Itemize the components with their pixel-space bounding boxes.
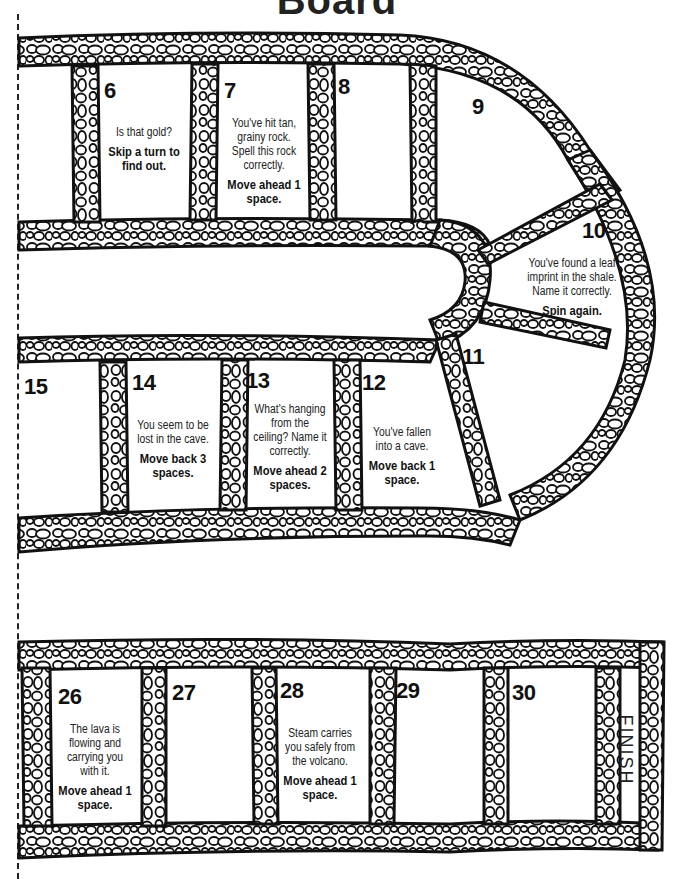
- space-number: 6: [104, 80, 116, 102]
- space-instructions: What's hanging from the ceiling? Name it…: [252, 402, 328, 492]
- space-number: 29: [396, 680, 419, 702]
- space-action: Move back 1 space.: [366, 459, 438, 487]
- space-message: The lava is flowing and carrying you wit…: [56, 722, 133, 778]
- divider-26-left: [22, 668, 52, 826]
- space-number: 28: [280, 680, 303, 702]
- space-instructions: The lava is flowing and carrying you wit…: [56, 722, 133, 812]
- divider-27-28: [252, 668, 278, 824]
- space-number: 30: [512, 682, 535, 704]
- space-number: 11: [462, 346, 484, 368]
- space-instructions: Steam carries you safely from the volcan…: [279, 726, 362, 802]
- space-message: You've found a leaf imprint in the shale…: [520, 256, 623, 298]
- divider-13-14: [220, 360, 248, 510]
- space-instructions: You seem to be lost in the cave. Move ba…: [134, 418, 211, 480]
- space-action: Move ahead 1 space.: [279, 774, 362, 802]
- finish-label: FINISH: [615, 714, 636, 785]
- space-action: Spin again.: [520, 304, 623, 318]
- space-message: You seem to be lost in the cave.: [134, 418, 211, 446]
- space-number: 14: [132, 372, 155, 394]
- space-action: Move ahead 1 space.: [224, 178, 303, 206]
- space-message: What's hanging from the ceiling? Name it…: [252, 402, 328, 458]
- board-space-finish: FINISH: [605, 690, 645, 810]
- divider-8-9: [410, 64, 436, 222]
- space-action: Move ahead 2 spaces.: [252, 464, 328, 492]
- divider-29-30: [484, 668, 508, 824]
- space-number: 7: [224, 80, 236, 102]
- space-message: Is that gold?: [104, 125, 183, 139]
- divider-6-7: [190, 64, 218, 220]
- path-border-middle-top: [19, 335, 440, 362]
- space-instructions: You've found a leaf imprint in the shale…: [520, 256, 623, 318]
- space-instructions: You've hit tan, grainy rock. Spell this …: [224, 116, 303, 206]
- divider-12-13: [334, 360, 362, 510]
- space-number: 27: [172, 682, 195, 704]
- space-number: 8: [338, 76, 350, 98]
- path-border-bottom-top: [19, 639, 662, 670]
- space-action: Skip a turn to find out.: [104, 145, 183, 173]
- divider-26-27: [142, 668, 166, 826]
- space-number: 15: [24, 376, 47, 398]
- space-message: Steam carries you safely from the volcan…: [279, 726, 362, 768]
- divider-6-left: [72, 66, 100, 222]
- divider-7-8: [308, 64, 336, 220]
- space-number: 9: [472, 96, 484, 118]
- space-number: 10: [582, 220, 605, 242]
- space-instructions: You've fallen into a cave. Move back 1 s…: [366, 425, 438, 487]
- divider-14-15: [100, 362, 128, 512]
- space-number: 12: [362, 372, 385, 394]
- space-number: 13: [246, 370, 269, 392]
- space-message: You've hit tan, grainy rock. Spell this …: [224, 116, 303, 172]
- space-action: Move ahead 1 space.: [56, 784, 133, 812]
- space-number: 26: [58, 686, 81, 708]
- path-border-bottom-bottom: [19, 821, 660, 858]
- path-border-middle-bottom: [19, 508, 520, 552]
- path-border-inner-curve: [430, 220, 490, 345]
- divider-28-29: [370, 668, 396, 824]
- space-message: You've fallen into a cave.: [366, 425, 438, 453]
- space-instructions: Is that gold? Skip a turn to find out.: [104, 125, 183, 173]
- space-action: Move back 3 spaces.: [134, 452, 211, 480]
